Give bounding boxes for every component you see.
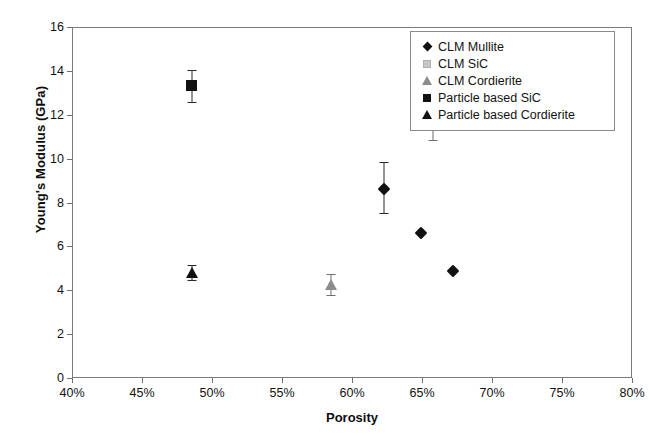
x-tick-mark: [142, 378, 143, 383]
x-tick-mark: [72, 378, 73, 383]
y-tick-label: 2: [22, 328, 64, 340]
legend-label: CLM SiC: [438, 57, 488, 71]
chart-figure: 0246810121416 40%45%50%55%60%65%70%75%80…: [0, 0, 649, 443]
x-tick-mark: [492, 378, 493, 383]
diamond-marker-icon: [422, 42, 432, 52]
legend-label: Particle based Cordierite: [438, 108, 575, 122]
x-tick-label: 70%: [469, 387, 515, 400]
x-tick-label: 55%: [259, 387, 305, 400]
legend-item[interactable]: CLM Mullite: [419, 38, 606, 55]
square-marker-icon: [423, 94, 431, 102]
x-tick-mark: [562, 378, 563, 383]
x-tick-mark: [282, 378, 283, 383]
legend-swatch: [419, 76, 435, 85]
legend-item[interactable]: Particle based SiC: [419, 89, 606, 106]
triangle-marker-icon: [422, 76, 432, 85]
x-axis-title: Porosity: [72, 410, 632, 425]
legend-label: Particle based SiC: [438, 91, 541, 105]
x-tick-label: 40%: [49, 387, 95, 400]
x-tick-mark: [422, 378, 423, 383]
legend-label: CLM Mullite: [438, 40, 504, 54]
x-tick-label: 80%: [609, 387, 649, 400]
square-marker-icon: [423, 60, 431, 68]
legend-swatch: [419, 43, 435, 50]
legend-item[interactable]: Particle based Cordierite: [419, 106, 606, 123]
x-tick-mark: [352, 378, 353, 383]
chart-legend: CLM MulliteCLM SiCCLM CordieriteParticle…: [410, 31, 615, 131]
legend-swatch: [419, 94, 435, 102]
x-tick-label: 60%: [329, 387, 375, 400]
legend-item[interactable]: CLM Cordierite: [419, 72, 606, 89]
x-tick-label: 50%: [189, 387, 235, 400]
y-tick-label: 0: [22, 372, 64, 384]
y-axis-title: Young's Modulus (GPa): [33, 50, 48, 270]
x-tick-label: 45%: [119, 387, 165, 400]
x-tick-label: 65%: [399, 387, 445, 400]
y-tick-mark: [67, 378, 72, 379]
y-tick-label: 16: [22, 21, 64, 33]
legend-label: CLM Cordierite: [438, 74, 522, 88]
triangle-marker-icon: [422, 110, 432, 119]
x-tick-mark: [212, 378, 213, 383]
legend-swatch: [419, 60, 435, 68]
x-tick-mark: [632, 378, 633, 383]
legend-item[interactable]: CLM SiC: [419, 55, 606, 72]
x-tick-label: 75%: [539, 387, 585, 400]
legend-swatch: [419, 110, 435, 119]
y-tick-label: 4: [22, 284, 64, 296]
